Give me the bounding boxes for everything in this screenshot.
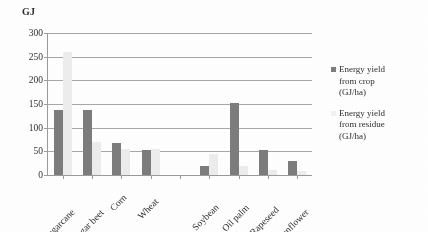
bar-crop: [54, 110, 63, 175]
x-axis-tick-label-text: Sunflower: [276, 207, 311, 232]
bar-group: [224, 33, 253, 175]
bar-group: [165, 33, 194, 175]
legend-item[interactable]: Energy yieldfrom crop(GJ/ha): [331, 64, 427, 99]
x-axis-labels: SugarcaneSugar beetCornWheatSoybeanOil p…: [47, 176, 311, 230]
plot-area: 050100150200250300: [47, 33, 312, 176]
x-label-cell: Corn: [106, 176, 135, 230]
bar-crop: [142, 150, 151, 175]
x-label-cell: Oil palm: [223, 176, 252, 230]
bar-group: [283, 33, 312, 175]
legend-label: Energy yieldfrom residue(GJ/ha): [339, 108, 427, 143]
bar-crop: [259, 150, 268, 175]
y-axis-title: GJ: [22, 6, 35, 17]
bar-group: [77, 33, 106, 175]
bar-residue: [268, 170, 277, 175]
bar-crop: [83, 110, 92, 175]
bar-chart: GJ 050100150200250300 SugarcaneSugar bee…: [0, 0, 428, 232]
x-axis-tick-label-text: Soybean: [191, 202, 221, 232]
bar-group: [253, 33, 282, 175]
bar-crop: [200, 166, 209, 175]
legend-label-line-3: (GJ/ha): [339, 131, 427, 143]
y-tick-label: 250: [29, 52, 43, 62]
x-axis-tick-label: Sunflower: [304, 179, 339, 214]
x-label-cell: Sunflower: [282, 176, 311, 230]
x-label-cell: Sugarcane: [47, 176, 76, 230]
legend-label-line-1: Energy yield: [339, 108, 427, 120]
bar-groups: [48, 33, 312, 175]
x-label-cell: Soybean: [194, 176, 223, 230]
legend-label-line-2: from residue: [339, 119, 427, 131]
x-axis-tick-label-text: Sugar beet: [70, 208, 106, 232]
y-tick-label: 50: [34, 146, 44, 156]
legend-label: Energy yieldfrom crop(GJ/ha): [339, 64, 427, 99]
y-tick-label: 100: [29, 123, 43, 133]
bar-crop: [288, 161, 297, 175]
bar-residue: [92, 142, 101, 175]
y-tick-label: 150: [29, 99, 43, 109]
bar-residue: [239, 166, 248, 175]
bar-residue: [63, 52, 72, 175]
y-tick-label: 200: [29, 75, 43, 85]
x-label-cell: Rapeseed: [252, 176, 281, 230]
legend-label-line-1: Energy yield: [339, 64, 427, 76]
bar-residue: [297, 171, 306, 175]
x-axis-tick-label-text: Wheat: [135, 197, 160, 222]
legend-item[interactable]: Energy yieldfrom residue(GJ/ha): [331, 108, 427, 143]
legend-swatch-residue: [331, 111, 336, 116]
legend-label-line-2: from crop: [339, 76, 427, 88]
x-axis-tick-label-text: Corn: [108, 192, 129, 213]
x-label-cell: Wheat: [135, 176, 164, 230]
bar-residue: [209, 154, 218, 175]
y-tick-label: 0: [38, 170, 43, 180]
x-axis-tick-label-text: Rapeseed: [248, 205, 281, 232]
legend-swatch-crop: [331, 67, 336, 72]
y-tick-label: 300: [29, 28, 43, 38]
bar-group: [195, 33, 224, 175]
bar-crop: [112, 143, 121, 175]
chart-legend: Energy yieldfrom crop(GJ/ha)Energy yield…: [331, 64, 427, 151]
x-axis-tick-label-text: Sugarcane: [41, 207, 76, 232]
legend-label-line-3: (GJ/ha): [339, 87, 427, 99]
x-label-cell: [164, 176, 193, 230]
bar-residue: [151, 149, 160, 175]
x-label-cell: Sugar beet: [76, 176, 105, 230]
x-axis-tick-label-text: Oil palm: [220, 203, 251, 232]
bar-residue: [121, 149, 130, 175]
bar-crop: [230, 103, 239, 175]
bar-group: [107, 33, 136, 175]
bar-group: [48, 33, 77, 175]
bar-group: [136, 33, 165, 175]
